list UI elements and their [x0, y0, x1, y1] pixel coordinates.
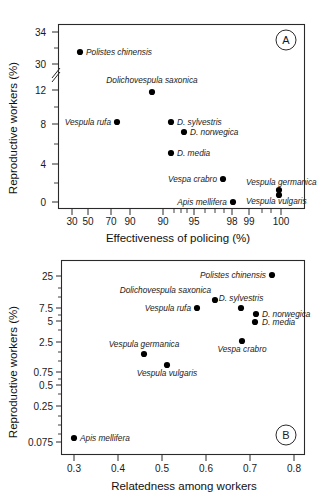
point-d-norwegica [181, 129, 187, 135]
label-vespa-crabro: Vespa crabro [217, 344, 266, 354]
panel-a-ytick-12: 12 [35, 85, 47, 96]
panel-a-letter: A [282, 34, 290, 46]
label-d-media: D. media [262, 317, 296, 327]
panel-b-letter-badge: B [276, 425, 296, 445]
panel-a-xtick-98: 98 [226, 216, 238, 227]
panel-b-ytick-2-5: 2.5 [39, 337, 53, 348]
label-vespula-rufa: Vespula rufa [145, 303, 192, 313]
panel-a-ytick-34: 34 [35, 27, 47, 38]
panel-b-xtick-0-3: 0.3 [67, 463, 81, 474]
panel-a-xtick-99: 99 [243, 216, 255, 227]
panel-b-ytick-25: 25 [42, 271, 54, 282]
point-d-media [252, 319, 258, 325]
panel-b-plot: Reproductive workers (%) 25 7.5 5 2.5 0.… [0, 252, 331, 504]
label-dolichovespula-saxonica: Dolichovespula saxonica [106, 75, 198, 85]
label-d-media: D. media [177, 148, 211, 158]
point-vespula-rufa [114, 119, 120, 125]
panel-b-ytick-0-75: 0.75 [34, 367, 54, 378]
panel-b-xtick-0-6: 0.6 [199, 463, 213, 474]
panel-a-y-ticks [52, 32, 58, 202]
label-vespula-germanica: Vespula germanica [109, 339, 180, 349]
panel-b: Reproductive workers (%) 25 7.5 5 2.5 0.… [0, 252, 331, 504]
point-vespa-crabro [220, 176, 226, 182]
panel-b-xtick-0-5: 0.5 [155, 463, 169, 474]
label-vespula-germanica: Vespula germanica [246, 177, 317, 187]
label-polistes-chinensis: Polistes chinensis [86, 47, 152, 57]
point-dolichovespula-saxonica [149, 89, 155, 95]
label-d-sylvestris: D. sylvestris [177, 117, 222, 127]
panel-a-xtick-95: 95 [188, 216, 200, 227]
panel-b-letter: B [282, 429, 289, 441]
panel-a-ytick-0: 0 [40, 197, 46, 208]
panel-b-y-axis-title: Reproductive workers (%) [7, 306, 19, 438]
panel-a-letter-badge: A [276, 30, 296, 50]
panel-a-ytick-4: 4 [40, 159, 46, 170]
panel-b-xtick-0-4: 0.4 [111, 463, 125, 474]
panel-b-ytick-0-075: 0.075 [28, 437, 53, 448]
panel-a-xtick-30: 30 [66, 216, 78, 227]
panel-a-xtick-50: 50 [82, 216, 94, 227]
point-vespula-rufa [194, 305, 200, 311]
panel-b-xtick-0-7: 0.7 [243, 463, 257, 474]
label-vespula-vulgaris: Vespula vulgaris [246, 196, 307, 206]
panel-b-xtick-0-8: 0.8 [287, 463, 301, 474]
point-dolichovespula-saxonica [212, 297, 218, 303]
panel-a-xtick-100: 100 [273, 216, 290, 227]
panel-b-species-labels: Polistes chinensis Dolichovespula saxoni… [79, 270, 311, 443]
point-d-sylvestris [168, 119, 174, 125]
panel-a-xtick-80: 90 [124, 216, 136, 227]
panel-a-species-labels: Polistes chinensis Dolichovespula saxoni… [65, 47, 317, 207]
panel-b-ytick-5: 5 [47, 316, 53, 327]
panel-b-ytick-7-5: 7.5 [39, 303, 53, 314]
panel-b-ytick-0-5: 0.5 [39, 380, 53, 391]
label-apis-mellifera: Apis mellifera [176, 197, 227, 207]
point-d-sylvestris [238, 305, 244, 311]
figure-root: Reproductive workers (%) 34 30 12 8 4 0 [0, 0, 331, 504]
panel-a-plot: Reproductive workers (%) 34 30 12 8 4 0 [0, 0, 331, 252]
panel-a-y-axis-title: Reproductive workers (%) [7, 62, 19, 194]
point-apis-mellifera [71, 435, 77, 441]
panel-b-ytick-0-25: 0.25 [34, 401, 54, 412]
panel-a: Reproductive workers (%) 34 30 12 8 4 0 [0, 0, 331, 252]
panel-a-ytick-8: 8 [40, 119, 46, 130]
label-vespula-rufa: Vespula rufa [65, 117, 112, 127]
panel-a-xtick-70: 70 [105, 216, 117, 227]
label-apis-mellifera: Apis mellifera [79, 433, 130, 443]
label-vespula-vulgaris: Vespula vulgaris [137, 368, 198, 378]
panel-a-x-axis-title: Effectiveness of policing (%) [106, 232, 250, 244]
panel-a-xtick-90: 90 [157, 216, 169, 227]
panel-b-x-ticks [74, 455, 294, 461]
panel-a-x-ticks [72, 209, 281, 215]
point-d-norwegica [253, 311, 259, 317]
point-polistes-chinensis [269, 272, 275, 278]
label-d-norwegica: D. norwegica [190, 127, 239, 137]
point-apis-mellifera [230, 199, 236, 205]
point-vespula-germanica [141, 351, 147, 357]
point-polistes-chinensis [77, 49, 83, 55]
panel-a-ytick-30: 30 [35, 59, 47, 70]
label-vespa-crabro: Vespa crabro [168, 174, 217, 184]
label-dolichovespula-saxonica: Dolichovespula saxonica [120, 285, 212, 295]
label-d-sylvestris: D. sylvestris [219, 293, 264, 303]
point-d-media [168, 150, 174, 156]
label-polistes-chinensis: Polistes chinensis [200, 270, 266, 280]
panel-b-x-axis-title: Relatedness among workers [111, 480, 257, 492]
